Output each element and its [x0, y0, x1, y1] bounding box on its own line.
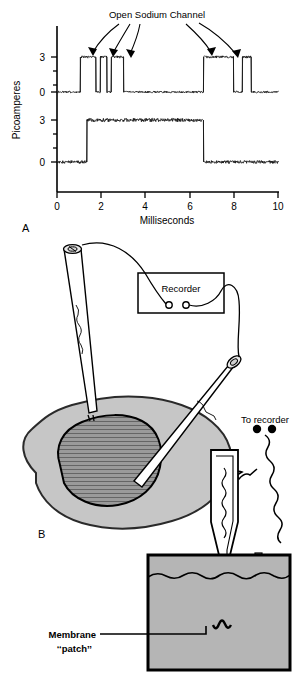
single-channel-current-chart: Open Sodium Channel	[0, 0, 307, 235]
arrow-3	[130, 24, 140, 54]
recorder-label: Recorder	[161, 283, 200, 294]
wire-terminal-left	[253, 425, 261, 433]
micropipette-left	[64, 245, 98, 421]
recorder-box: Recorder	[138, 273, 224, 313]
panel-a-recordings: Open Sodium Channel	[0, 0, 307, 235]
recorder-terminal-right	[183, 302, 189, 308]
y-tick-label-lower-0: 0	[39, 157, 45, 168]
y-axis-ticks	[51, 57, 57, 162]
arrow-1	[93, 24, 119, 52]
membrane-label: Membrane	[48, 629, 96, 640]
panel-b-letter: B	[38, 528, 45, 540]
y-tick-label-lower-3: 3	[39, 115, 45, 126]
to-recorder-label: To recorder	[241, 414, 289, 425]
cell-nucleus	[58, 415, 161, 506]
y-tick-label-upper-3: 3	[39, 52, 45, 63]
panel-b-apparatus: Recorder To recorder	[0, 225, 307, 688]
patch-clamp-apparatus-diagram: Recorder To recorder	[0, 225, 307, 688]
x-tick-label-2: 2	[98, 201, 104, 212]
x-axis-ticks	[57, 192, 278, 198]
patch-label: ‘‘patch’’	[57, 643, 92, 654]
wire-terminal-right	[268, 425, 276, 433]
y-axis-title: Picoamperes	[11, 81, 22, 139]
x-tick-label-10: 10	[272, 201, 284, 212]
trace-single-channel	[57, 56, 279, 93]
chart-annotation-label: Open Sodium Channel	[109, 9, 205, 20]
recorder-terminal-left	[166, 302, 172, 308]
x-tick-label-0: 0	[54, 201, 60, 212]
bath-chamber	[148, 555, 290, 670]
trace-ensemble-average	[57, 118, 279, 163]
x-tick-label-6: 6	[187, 201, 193, 212]
arrow-2	[113, 24, 130, 53]
arrow-5	[199, 23, 236, 54]
figure-patch-clamp: Open Sodium Channel	[0, 0, 307, 688]
x-tick-label-8: 8	[231, 201, 237, 212]
y-tick-label-upper-0: 0	[39, 87, 45, 98]
x-tick-label-4: 4	[142, 201, 148, 212]
coiled-wire-right	[265, 435, 282, 543]
